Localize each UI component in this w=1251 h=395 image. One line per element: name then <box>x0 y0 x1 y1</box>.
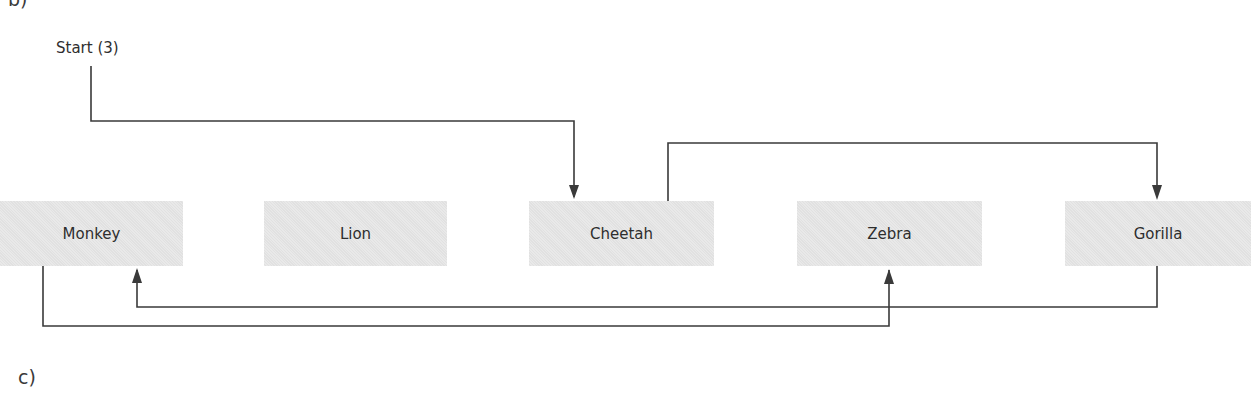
section-label-c: c) <box>18 366 36 388</box>
edge-gorilla-to-monkey <box>137 266 1157 307</box>
edge-cheetah-to-gorilla <box>668 143 1157 201</box>
arrowhead-down-icon <box>1152 185 1162 200</box>
edge-monkey-to-zebra <box>43 266 889 326</box>
edge-start-to-cheetah <box>91 66 574 197</box>
arrowhead-down-icon <box>569 185 579 199</box>
arrowhead-up-icon <box>884 269 894 284</box>
connector-lines <box>0 0 1251 395</box>
arrowhead-up-icon <box>132 268 142 283</box>
